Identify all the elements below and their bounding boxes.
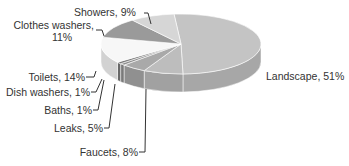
slice-side-dish-washers xyxy=(117,62,120,81)
leader-faucets xyxy=(139,89,146,152)
label-leaks: Leaks, 5% xyxy=(30,122,103,134)
label-faucets: Faucets, 8% xyxy=(50,146,138,158)
label-landscape: Landscape, 51% xyxy=(266,70,344,82)
slice-side-baths xyxy=(121,64,124,83)
leader-leaks xyxy=(104,84,115,128)
leader-clothes-washers xyxy=(96,30,104,36)
label-dish-washers: Dish washers, 1% xyxy=(0,86,90,98)
leader-dish-washers xyxy=(91,79,102,92)
label-baths: Baths, 1% xyxy=(20,104,92,116)
leader-baths xyxy=(93,80,104,110)
label-clothes-washers-line1: Clothes washers, xyxy=(10,19,94,31)
label-toilets: Toilets, 14% xyxy=(10,71,85,83)
label-clothes-washers: Clothes washers, 11% xyxy=(10,19,94,43)
label-clothes-washers-line2: 11% xyxy=(10,31,94,43)
leader-toilets xyxy=(86,71,96,77)
pie-top-slices xyxy=(101,14,261,74)
label-showers: Showers, 9% xyxy=(74,6,136,18)
